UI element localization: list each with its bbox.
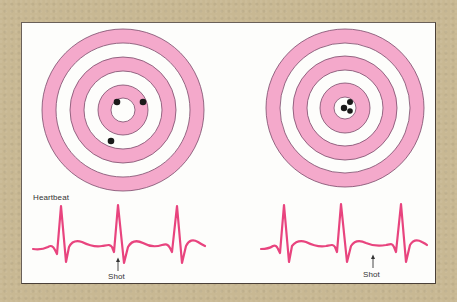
figure-art	[0, 0, 457, 302]
left-ecg-trace	[33, 205, 205, 263]
heartbeat-label: Heartbeat	[33, 193, 69, 202]
right-ecg-trace	[261, 204, 427, 262]
left-shot-label: Shot	[108, 272, 125, 281]
right-shot-arrow-icon	[371, 255, 375, 269]
left-shot-arrow-icon	[116, 258, 120, 272]
right-target	[266, 29, 424, 187]
right-shot-label: Shot	[363, 270, 380, 279]
left-target	[42, 29, 204, 191]
